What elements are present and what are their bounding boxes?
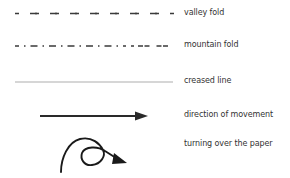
- mountain-fold-line-icon: [0, 32, 180, 60]
- valley-fold-line-icon: [0, 0, 180, 28]
- legend-row-turning-over-paper: turning over the paper: [0, 128, 290, 178]
- direction-of-movement-label: direction of movement: [184, 110, 273, 119]
- creased-line-label: creased line: [184, 76, 231, 85]
- legend-row-creased-line: creased line: [0, 70, 290, 94]
- legend-row-valley-fold: valley fold: [0, 0, 290, 28]
- turn-over-loop-arrow-icon: [0, 128, 180, 178]
- mountain-fold-label: mountain fold: [184, 40, 238, 49]
- valley-fold-label: valley fold: [184, 8, 224, 17]
- creased-line-icon: [0, 70, 180, 94]
- legend-row-direction-of-movement: direction of movement: [0, 104, 290, 128]
- turning-over-paper-label: turning over the paper: [184, 139, 272, 148]
- legend-row-mountain-fold: mountain fold: [0, 32, 290, 60]
- direction-arrow-icon: [0, 104, 180, 128]
